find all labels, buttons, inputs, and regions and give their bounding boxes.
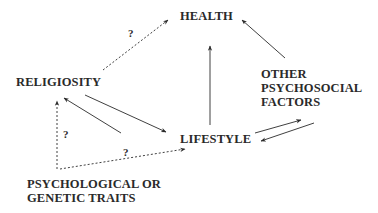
node-traits-line-2: GENETIC TRAITS bbox=[27, 191, 161, 205]
node-other-line-1: OTHER bbox=[261, 67, 362, 81]
label-question-religiosity-health: ? bbox=[128, 27, 134, 39]
edge-other-to-lifestyle bbox=[261, 123, 314, 141]
node-other-psychosocial-factors: OTHER PSYCHOSOCIAL FACTORS bbox=[261, 67, 362, 109]
edge-religiosity-to-lifestyle bbox=[85, 95, 166, 132]
edge-lifestyle-to-religiosity bbox=[64, 98, 121, 133]
node-psychological-genetic-traits: PSYCHOLOGICAL OR GENETIC TRAITS bbox=[27, 177, 161, 205]
node-other-line-3: FACTORS bbox=[261, 95, 362, 109]
node-traits-line-1: PSYCHOLOGICAL OR bbox=[27, 177, 161, 191]
node-health: HEALTH bbox=[180, 9, 233, 23]
node-other-line-2: PSYCHOSOCIAL bbox=[261, 81, 362, 95]
edge-other-to-health bbox=[242, 20, 285, 58]
node-lifestyle: LIFESTYLE bbox=[180, 132, 251, 146]
label-question-traits-religiosity: ? bbox=[63, 128, 69, 140]
edge-lifestyle-to-other bbox=[255, 120, 301, 133]
label-question-traits-lifestyle: ? bbox=[123, 146, 129, 158]
node-religiosity: RELIGIOSITY bbox=[16, 75, 101, 89]
edge-religiosity-to-health bbox=[103, 20, 168, 70]
